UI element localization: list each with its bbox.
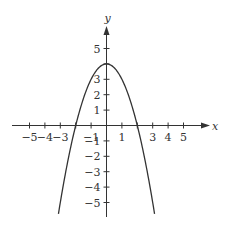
x-tick-label: 1 <box>118 131 125 144</box>
y-tick-label: −3 <box>84 166 100 179</box>
y-tick-label: 5 <box>94 43 101 56</box>
y-axis-label: y <box>104 12 112 25</box>
y-tick-label: −2 <box>84 150 100 163</box>
y-tick-label: 1 <box>94 104 101 117</box>
parabola-plot: xy −5−4−3−113455321−1−2−3−4−5 <box>0 0 227 232</box>
y-tick-label: 2 <box>94 89 101 102</box>
y-tick-label: 3 <box>94 73 101 86</box>
x-tick-label: 4 <box>165 131 172 144</box>
x-tick-label: 5 <box>180 131 187 144</box>
x-axis-arrow-icon <box>201 123 210 129</box>
x-axis-label: x <box>212 120 219 133</box>
y-tick-label: −4 <box>84 181 100 194</box>
x-tick-label: 3 <box>149 131 156 144</box>
axes: xy <box>12 12 219 217</box>
x-tick-label: −5 <box>21 131 37 144</box>
y-axis-arrow-icon <box>104 26 110 35</box>
y-tick-label: −5 <box>84 197 100 210</box>
x-tick-label: −3 <box>52 131 68 144</box>
x-tick-label: −4 <box>37 131 53 144</box>
y-tick-label: −1 <box>84 135 100 148</box>
